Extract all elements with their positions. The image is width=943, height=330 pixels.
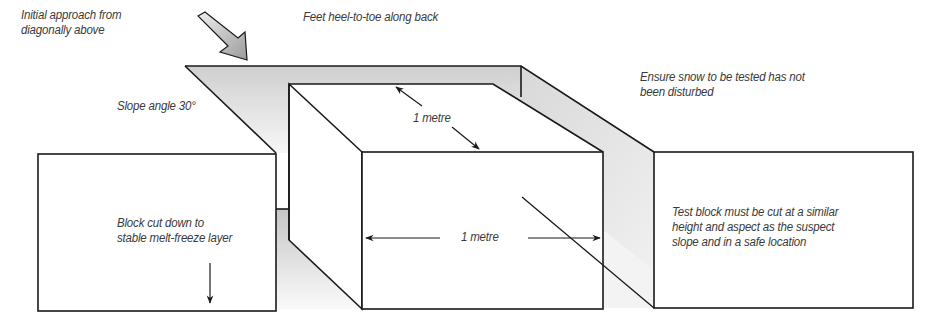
slope-angle-label: Slope angle 30° — [117, 99, 196, 114]
width-dimension-label: 1 metre — [461, 230, 499, 245]
undisturbed-label: Ensure snow to be tested has not been di… — [640, 70, 805, 100]
snow-test-block-diagram: Initial approach from diagonally above F… — [0, 0, 943, 330]
approach-label: Initial approach from diagonally above — [21, 8, 121, 38]
feet-label: Feet heel-to-toe along back — [303, 10, 438, 25]
thick-diagonal-arrow-icon — [198, 12, 247, 60]
block-cut-label: Block cut down to stable melt-freeze lay… — [117, 216, 232, 246]
diagram-drawing — [0, 0, 943, 330]
depth-dimension-label: 1 metre — [413, 111, 451, 126]
test-block-label: Test block must be cut at a similar heig… — [672, 205, 838, 250]
